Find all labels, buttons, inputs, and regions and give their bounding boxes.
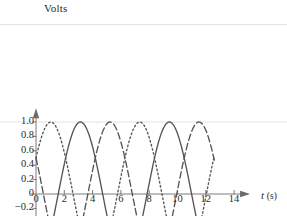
plot-canvas — [0, 0, 287, 216]
x-tick-label: 6 — [112, 193, 130, 204]
x-tick-label: 10 — [169, 193, 187, 204]
x-tick-label: 12 — [197, 193, 215, 204]
x-tick-label: 14 — [225, 193, 243, 204]
y-tick-label: 0.4 — [0, 158, 34, 169]
y-tick-label: 0.2 — [0, 173, 34, 184]
y-tick-label: 0.6 — [0, 144, 34, 155]
x-tick-label: 2 — [55, 193, 73, 204]
y-tick-label: 0.8 — [0, 129, 34, 140]
x-tick-label: 8 — [140, 193, 158, 204]
chart-figure: Volts t (s) −1.0−0.8−0.6−0.4−0.200.20.40… — [0, 0, 287, 216]
x-tick-label: 4 — [84, 193, 102, 204]
x-tick-label: 0 — [27, 193, 45, 204]
y-tick-label: 1.0 — [0, 115, 34, 126]
